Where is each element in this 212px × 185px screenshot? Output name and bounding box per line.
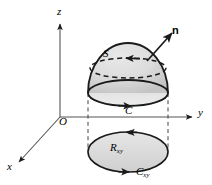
region-label-base: R	[110, 141, 117, 153]
curve-label-c: C	[125, 105, 132, 116]
projected-region-group	[88, 132, 168, 172]
surface-s-group	[88, 33, 172, 106]
axis-label-y: y	[198, 107, 203, 118]
surface-label-s: S	[103, 48, 109, 59]
projected-curve-label-cxy: Cxy	[136, 166, 150, 177]
figure-canvas	[0, 0, 212, 185]
axis-label-x: x	[7, 161, 12, 172]
region-label-subscript: xy	[117, 147, 123, 154]
projected-curve-label-subscript: xy	[143, 171, 149, 178]
normal-vector-label-n: n	[172, 25, 179, 36]
stokes-theorem-figure: z y x O S C n Rxy Cxy	[0, 0, 212, 185]
origin-label: O	[59, 116, 67, 127]
normal-vector-arrow	[147, 33, 172, 61]
axis-label-z: z	[57, 6, 61, 17]
x-axis-line	[19, 117, 60, 162]
region-label-rxy: Rxy	[110, 142, 123, 153]
